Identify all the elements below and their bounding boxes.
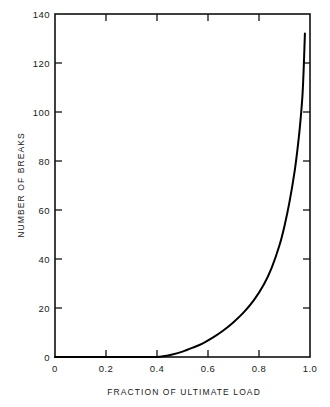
x-tick-label-0-6: 0.6: [201, 363, 216, 374]
chart-figure: 0 20 40 60 80 100 120 140 0 0.2 0.4 0.6 …: [0, 0, 330, 407]
y-tick-label-120: 120: [33, 58, 50, 69]
y-tick-label-140: 140: [33, 9, 50, 20]
x-tick-label-0-2: 0.2: [99, 363, 114, 374]
y-axis-title: NUMBER OF BREAKS: [16, 132, 26, 237]
x-tick-label-0-8: 0.8: [252, 363, 267, 374]
y-tick-label-20: 20: [38, 303, 50, 314]
y-tick-label-100: 100: [33, 107, 50, 118]
x-axis-title: FRACTION OF ULTIMATE LOAD: [107, 387, 261, 397]
x-tick-label-1-0: 1.0: [303, 363, 318, 374]
y-tick-label-60: 60: [38, 205, 50, 216]
y-tick-label-40: 40: [38, 254, 50, 265]
x-tick-label-0-4: 0.4: [150, 363, 165, 374]
y-tick-label-80: 80: [38, 156, 50, 167]
x-tick-label-0: 0: [52, 363, 58, 374]
y-tick-label-0: 0: [44, 352, 50, 363]
